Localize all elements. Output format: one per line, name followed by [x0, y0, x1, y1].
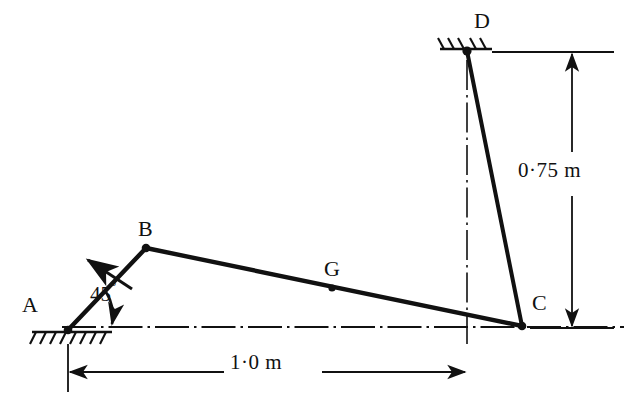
point-label-C: C [532, 292, 547, 314]
linkage-bars [68, 51, 522, 330]
dimension-label-horizontal: 1·0 m [230, 352, 282, 373]
dimension-label-vertical: 0·75 m [518, 160, 581, 181]
centre-of-mass-G [328, 284, 335, 291]
joints [64, 46, 527, 334]
angle-value: 45 [90, 282, 111, 306]
point-label-A: A [22, 294, 38, 316]
joint-B [142, 244, 151, 253]
joint-A [64, 326, 73, 335]
dimension-vertical [492, 52, 614, 328]
point-label-G: G [324, 258, 340, 280]
joint-C [518, 322, 527, 331]
degree-symbol: ° [111, 278, 116, 293]
mechanism-diagram: A B G C D 45° 1·0 m 0·75 m [0, 0, 639, 420]
ground-hatching-D [438, 38, 486, 49]
point-label-D: D [474, 10, 490, 32]
point-label-B: B [138, 218, 153, 240]
ground-support-A [30, 332, 112, 344]
diagram-canvas [0, 0, 639, 420]
link-DC [467, 51, 522, 326]
angle-label-45-degrees: 45° [90, 282, 116, 305]
joint-D [462, 46, 471, 55]
